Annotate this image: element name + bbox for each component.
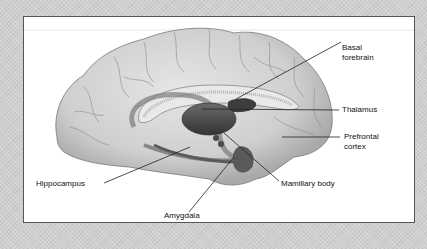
- label-mamillary-body: Mamillary body: [281, 179, 335, 189]
- diagram-frame: Basal forebrain Thalamus Prefrontal cort…: [23, 16, 415, 223]
- label-basal-forebrain: Basal forebrain: [342, 43, 374, 63]
- label-hippocampus: Hippocampus: [36, 179, 85, 189]
- amygdala-structure: [233, 147, 253, 172]
- thalamus-structure: [182, 103, 236, 135]
- label-thalamus: Thalamus: [342, 105, 377, 115]
- label-prefrontal-cortex: Prefrontal cortex: [344, 132, 379, 152]
- label-amygdala: Amygdala: [164, 211, 200, 221]
